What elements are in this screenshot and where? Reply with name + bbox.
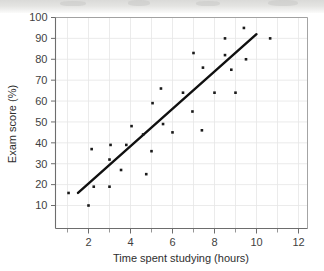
data-point: [202, 66, 205, 69]
data-point: [145, 173, 148, 176]
y-axis-title: Exam score (%): [6, 85, 18, 163]
y-tick-label: 80: [35, 53, 47, 65]
data-point: [245, 58, 248, 61]
data-point: [243, 27, 246, 30]
x-axis-title: Time spent studying (hours): [113, 252, 249, 264]
data-point: [130, 125, 133, 128]
y-tick-label: 70: [35, 74, 47, 86]
data-point: [171, 131, 174, 134]
y-tick-label: 100: [29, 11, 47, 23]
data-point: [269, 37, 272, 40]
x-tick-label: 12: [292, 236, 304, 248]
x-axis-tick-labels: 24681012: [85, 236, 304, 248]
data-point: [192, 52, 195, 55]
data-point: [87, 204, 90, 207]
y-tick-label: 10: [35, 199, 47, 211]
plot-frame: [56, 18, 308, 229]
scan-smudge: [60, 1, 86, 6]
data-point: [234, 91, 237, 94]
data-point: [213, 91, 216, 94]
y-tick-label: 50: [35, 116, 47, 128]
scan-smudge: [128, 0, 150, 6]
data-point: [109, 144, 112, 147]
y-axis-ticks: [51, 18, 56, 206]
x-tick-label: 10: [250, 236, 262, 248]
data-point: [182, 91, 185, 94]
data-points-group: [67, 27, 271, 207]
data-point: [160, 87, 163, 90]
x-tick-label: 8: [211, 236, 217, 248]
data-point: [92, 185, 95, 188]
scan-smudge: [268, 0, 298, 6]
x-axis-ticks: [68, 229, 299, 234]
data-point: [120, 169, 123, 172]
x-tick-label: 2: [85, 236, 91, 248]
data-point: [108, 158, 111, 161]
x-tick-label: 6: [169, 236, 175, 248]
data-point: [201, 129, 204, 132]
data-point: [142, 133, 145, 136]
data-point: [230, 68, 233, 71]
y-tick-label: 20: [35, 178, 47, 190]
y-tick-label: 30: [35, 158, 47, 170]
x-tick-label: 4: [127, 236, 133, 248]
axis-lines: [56, 18, 308, 229]
data-point: [162, 123, 165, 126]
data-point: [150, 150, 153, 153]
data-point: [90, 148, 93, 151]
data-point: [108, 185, 111, 188]
data-point: [224, 54, 227, 57]
data-point: [224, 37, 227, 40]
data-point: [125, 144, 128, 147]
y-axis-tick-labels: 102030405060708090100: [29, 11, 47, 211]
y-tick-label: 60: [35, 95, 47, 107]
data-point: [151, 102, 154, 105]
trend-line-group: [78, 34, 257, 193]
scatter-chart-figure: 102030405060708090100 24681012 Time spen…: [0, 0, 324, 271]
trend-line: [78, 34, 257, 193]
chart-canvas: 102030405060708090100 24681012 Time spen…: [0, 0, 324, 271]
y-tick-label: 40: [35, 137, 47, 149]
data-point: [67, 192, 70, 195]
scan-smudge: [196, 1, 220, 6]
y-tick-label: 90: [35, 32, 47, 44]
gridlines: [56, 18, 308, 229]
data-point: [191, 110, 194, 113]
